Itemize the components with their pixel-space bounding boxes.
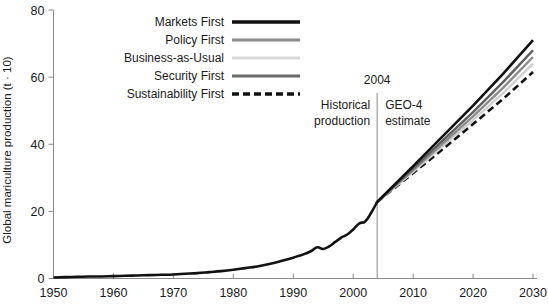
x-axis: 195019601970198019902000201020202030 xyxy=(40,274,547,300)
x-tick-label: 1950 xyxy=(40,286,68,300)
divider-year-label: 2004 xyxy=(364,73,391,87)
y-tick-labels: 020406080 xyxy=(31,4,45,287)
legend-label: Policy First xyxy=(165,33,224,47)
x-tick-labels: 195019601970198019902000201020202030 xyxy=(40,286,547,300)
x-tick-label: 1960 xyxy=(100,286,128,300)
x-tick-label: 2030 xyxy=(519,286,547,300)
y-axis: 020406080 xyxy=(31,4,54,287)
chart-canvas: 020406080 195019601970198019902000201020… xyxy=(0,0,548,308)
y-tick-marks xyxy=(49,10,54,279)
legend-label: Sustainability First xyxy=(127,87,225,101)
y-tick-label: 80 xyxy=(31,4,45,18)
historical-region-label-line1: Historical xyxy=(321,98,370,112)
mariculture-production-chart: 020406080 195019601970198019902000201020… xyxy=(0,0,548,308)
x-tick-label: 2010 xyxy=(399,286,427,300)
divider-2004: 2004 Historical production GEO-4 estimat… xyxy=(314,73,431,279)
y-tick-label: 40 xyxy=(31,138,45,152)
x-tick-label: 1970 xyxy=(159,286,187,300)
legend-label: Markets First xyxy=(155,15,225,29)
y-tick-label: 60 xyxy=(31,71,45,85)
x-tick-label: 1990 xyxy=(279,286,307,300)
series-line-historical-production xyxy=(54,202,378,278)
x-tick-label: 2020 xyxy=(459,286,487,300)
estimate-region-label-line1: GEO-4 xyxy=(385,98,423,112)
chart-legend: Markets FirstPolicy FirstBusiness-as-Usu… xyxy=(124,15,300,101)
x-tick-label: 2000 xyxy=(339,286,367,300)
y-axis-title: Global mariculture production (t · 10) xyxy=(1,56,13,243)
historical-region-label-line2: production xyxy=(314,114,370,128)
y-tick-label: 0 xyxy=(38,272,45,286)
estimate-region-label-line2: estimate xyxy=(385,114,431,128)
y-tick-label: 20 xyxy=(31,205,45,219)
legend-label: Security First xyxy=(154,69,225,83)
legend-label: Business-as-Usual xyxy=(124,51,224,65)
x-tick-label: 1980 xyxy=(219,286,247,300)
